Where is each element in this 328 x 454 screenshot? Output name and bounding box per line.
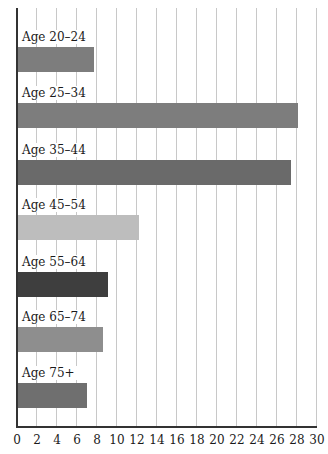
- gridline: [296, 8, 297, 427]
- gridline: [316, 8, 317, 427]
- bar: [17, 215, 139, 240]
- category-label: Age 65–74: [20, 310, 88, 324]
- category-label: Age 45–54: [20, 198, 88, 212]
- gridline: [176, 8, 177, 427]
- bar: [17, 272, 108, 297]
- x-tick-label: 30: [305, 433, 328, 447]
- gridline: [156, 8, 157, 427]
- bar: [17, 383, 87, 408]
- gridline: [276, 8, 277, 427]
- category-label: Age 75+: [20, 366, 77, 380]
- y-axis-line: [16, 8, 18, 428]
- category-label: Age 55–64: [20, 255, 88, 269]
- bar: [17, 47, 94, 72]
- x-axis-line: [16, 426, 317, 428]
- gridline: [196, 8, 197, 427]
- bar-chart: Age 20–24Age 25–34Age 35–44Age 45–54Age …: [0, 0, 328, 454]
- bar: [17, 103, 298, 128]
- category-label: Age 25–34: [20, 86, 88, 100]
- category-label: Age 20–24: [20, 30, 88, 44]
- bar: [17, 160, 291, 185]
- gridline: [216, 8, 217, 427]
- category-label: Age 35–44: [20, 143, 88, 157]
- gridline: [236, 8, 237, 427]
- bar: [17, 327, 103, 352]
- gridline: [256, 8, 257, 427]
